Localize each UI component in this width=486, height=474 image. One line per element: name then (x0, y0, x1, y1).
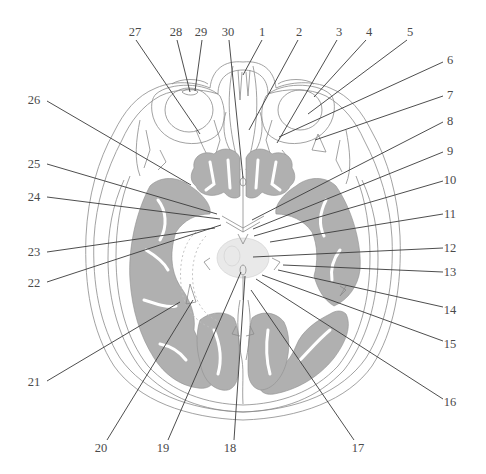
callout-label-20: 20 (95, 441, 108, 455)
callout-label-9: 9 (447, 144, 453, 158)
callout-label-4: 4 (366, 25, 373, 39)
callout-label-7: 7 (447, 88, 453, 102)
callout-label-30: 30 (222, 25, 235, 39)
callout-label-28: 28 (170, 25, 183, 39)
leader-line-29 (195, 40, 202, 91)
callout-label-26: 26 (28, 93, 41, 107)
callout-label-2: 2 (296, 25, 302, 39)
callout-label-13: 13 (444, 265, 457, 279)
leader-line-5 (308, 40, 407, 114)
callout-label-5: 5 (407, 25, 413, 39)
callout-label-19: 19 (157, 441, 170, 455)
callout-label-16: 16 (444, 395, 457, 409)
callout-label-12: 12 (444, 241, 457, 255)
callout-label-21: 21 (28, 375, 41, 389)
callout-label-11: 11 (444, 207, 456, 221)
callout-label-18: 18 (224, 441, 237, 455)
callout-label-14: 14 (444, 303, 457, 317)
callout-label-27: 27 (129, 25, 142, 39)
callout-label-24: 24 (28, 190, 41, 204)
leader-line-4 (314, 40, 366, 97)
callout-label-22: 22 (28, 276, 41, 290)
callout-label-25: 25 (28, 157, 41, 171)
axial-head-section-diagram: 1234567891011121314151617181920212223242… (0, 0, 486, 474)
callout-label-6: 6 (447, 53, 453, 67)
callout-label-8: 8 (447, 114, 453, 128)
callout-label-17: 17 (352, 441, 365, 455)
callout-label-23: 23 (28, 245, 41, 259)
callout-label-3: 3 (336, 25, 342, 39)
callout-label-1: 1 (259, 25, 265, 39)
callout-label-29: 29 (195, 25, 208, 39)
callout-label-10: 10 (444, 173, 457, 187)
callout-label-15: 15 (444, 337, 457, 351)
